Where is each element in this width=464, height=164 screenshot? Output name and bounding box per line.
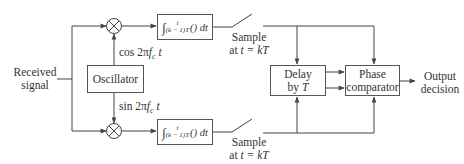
input-label-line1: Received xyxy=(12,66,58,79)
bottom-integrand: () dt xyxy=(190,126,208,139)
output-label: Output decision xyxy=(418,70,462,96)
top-sampler-expr: t = kT xyxy=(240,44,268,56)
top-integrator-box: ∫ t (k − 1)T () dt xyxy=(157,14,213,40)
oscillator-label: Oscillator xyxy=(93,73,138,86)
comparator-line2: comparator xyxy=(346,81,398,94)
cos-prefix: cos 2π xyxy=(119,46,149,58)
bottom-sampler-label: Sample at t = kT xyxy=(226,136,272,162)
top-lower-limit: (k − 1)T xyxy=(166,27,189,34)
bottom-sampler-line1: Sample xyxy=(226,136,272,149)
cos-t: t xyxy=(156,46,162,58)
top-sampler-line1: Sample xyxy=(226,31,272,44)
delay-box: Delay by T xyxy=(270,65,326,96)
output-line1: Output xyxy=(418,70,462,83)
bottom-sampler-switch xyxy=(232,119,252,132)
input-label: Received signal xyxy=(12,66,58,92)
bottom-sampler-at: at xyxy=(229,149,240,161)
top-sampler-label: Sample at t = kT xyxy=(226,31,272,57)
bottom-integrator-box: ∫ t (k − 1)T () dt xyxy=(157,119,213,145)
top-sampler-at: at xyxy=(229,44,240,56)
delay-by: by xyxy=(288,81,302,93)
phase-comparator-box: Phase comparator xyxy=(345,65,400,96)
bottom-lower-limit: (k − 1)T xyxy=(166,132,189,139)
top-sampler-line2: at t = kT xyxy=(226,44,272,57)
delay-var: T xyxy=(302,81,308,93)
top-integrator-limits: t (k − 1)T xyxy=(166,20,189,34)
bottom-integrator-limits: t (k − 1)T xyxy=(166,125,189,139)
output-line2: decision xyxy=(418,83,462,96)
input-label-line2: signal xyxy=(12,79,58,92)
delay-line2: by T xyxy=(288,81,309,94)
cos-carrier-label: cos 2πfc t xyxy=(119,46,162,63)
delay-line1: Delay xyxy=(284,68,311,81)
bottom-sampler-expr: t = kT xyxy=(240,149,268,161)
diagram-canvas: Received signal cos 2πfc t Oscillator si… xyxy=(0,0,464,164)
oscillator-box: Oscillator xyxy=(87,65,144,93)
comparator-line1: Phase xyxy=(359,68,386,81)
bottom-sampler-line2: at t = kT xyxy=(226,149,272,162)
sin-prefix: sin 2π xyxy=(119,100,147,112)
sin-t: t xyxy=(154,100,160,112)
top-integrand: () dt xyxy=(190,21,208,34)
sin-carrier-label: sin 2πfc t xyxy=(119,100,160,117)
top-sampler-switch xyxy=(232,14,252,27)
